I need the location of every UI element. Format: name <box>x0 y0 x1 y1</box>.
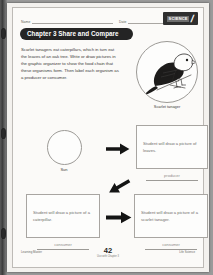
binder-hole <box>1 228 6 239</box>
answer-box-leaves-text: Student will draw a picture of leaves. <box>137 140 207 155</box>
footer-center: 42 Use with Chapter 3 <box>21 247 195 259</box>
footer-right-text: Life Science <box>179 251 195 254</box>
name-label: Name <box>21 21 32 24</box>
logo-slash-icon: / <box>190 14 195 24</box>
worksheet-sheet: Name Date SCIENCE / Chapter 3 Share and … <box>7 3 209 272</box>
student-info-row: Name Date <box>21 14 176 24</box>
arrow-right-icon <box>106 141 130 159</box>
scarlet-tanager-illustration-icon <box>136 41 198 103</box>
page-number: 42 <box>21 247 195 255</box>
binder-spine <box>0 0 7 275</box>
binder-hole <box>1 128 6 139</box>
label-line-producer[interactable]: producer <box>146 174 198 181</box>
arrow-right-icon <box>106 210 132 228</box>
sun-label: Sun <box>41 168 87 172</box>
name-rule <box>32 22 113 24</box>
worksheet-page: Name Date SCIENCE / Chapter 3 Share and … <box>0 0 213 275</box>
label-line-producer-rule <box>146 180 198 181</box>
binder-hole <box>1 28 6 39</box>
science-logo: SCIENCE / <box>163 12 198 25</box>
science-logo-label: SCIENCE <box>167 16 189 22</box>
sun-circle-icon <box>47 130 82 165</box>
name-field[interactable]: Name <box>21 21 113 24</box>
footer-sub-text: Use with Chapter 3 <box>21 256 195 259</box>
figure-caption: Scarlet tanager <box>131 105 203 109</box>
page-footer: Learning Master 42 Use with Chapter 3 Li… <box>21 247 195 261</box>
answer-box-leaves[interactable]: Student will draw a picture of leaves. <box>136 125 208 169</box>
answer-box-caterpillar[interactable]: Student will draw a picture of a caterpi… <box>26 194 100 238</box>
chapter-banner: Chapter 3 Share and Compare <box>20 28 133 40</box>
answer-box-tanager-text: Student will draw a picture of a scarlet… <box>135 209 207 224</box>
scarlet-tanager-figure: Scarlet tanager <box>131 41 203 109</box>
chapter-title: Chapter 3 Share and Compare <box>27 31 119 37</box>
answer-box-caterpillar-text: Student will draw a picture of a caterpi… <box>27 209 99 224</box>
arrow-down-left-icon <box>105 174 131 200</box>
date-label: Date <box>119 21 128 24</box>
instructions-paragraph: Scarlet tanagers eat caterpillars, which… <box>21 47 119 82</box>
worksheet-border: Name Date SCIENCE / Chapter 3 Share and … <box>12 7 204 268</box>
sun-node: Sun <box>41 130 87 172</box>
answer-box-tanager[interactable]: Student will draw a picture of a scarlet… <box>134 194 208 238</box>
